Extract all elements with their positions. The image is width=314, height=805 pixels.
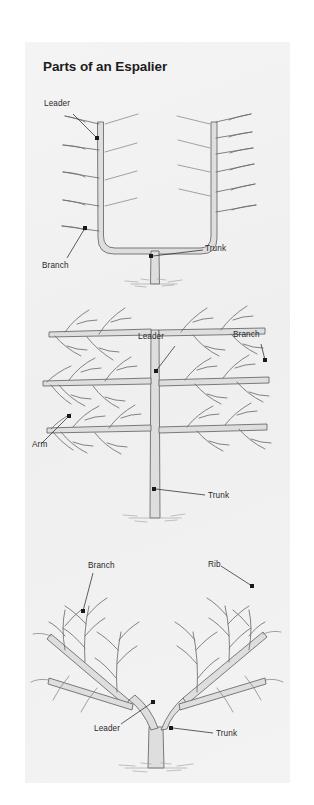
label-fig1-trunk: Trunk [205, 244, 226, 253]
illustration-panel: Parts of an Espalier [25, 42, 290, 783]
label-fig3-trunk: Trunk [216, 729, 237, 738]
figure-double-u-espalier [25, 88, 290, 288]
label-fig1-branch: Branch [42, 261, 69, 270]
espalier-diagram-page: Parts of an Espalier [0, 0, 314, 805]
figure-fan-palmette-espalier [25, 532, 290, 777]
horizontal-cordon-drawing [25, 290, 290, 530]
figure-horizontal-cordon-espalier [25, 290, 290, 530]
fan-palmette-drawing [25, 532, 290, 777]
label-fig3-rib: Rib [208, 560, 221, 569]
label-fig2-leader: Leader [138, 332, 164, 341]
page-title: Parts of an Espalier [43, 59, 167, 74]
label-fig2-branch: Branch [233, 330, 260, 339]
label-fig2-arm: Arm [32, 440, 47, 449]
label-fig1-leader: Leader [44, 99, 70, 108]
label-fig2-trunk: Trunk [208, 491, 229, 500]
label-fig3-branch: Branch [88, 561, 115, 570]
label-fig3-leader: Leader [94, 724, 120, 733]
double-u-espalier-drawing [25, 88, 290, 288]
